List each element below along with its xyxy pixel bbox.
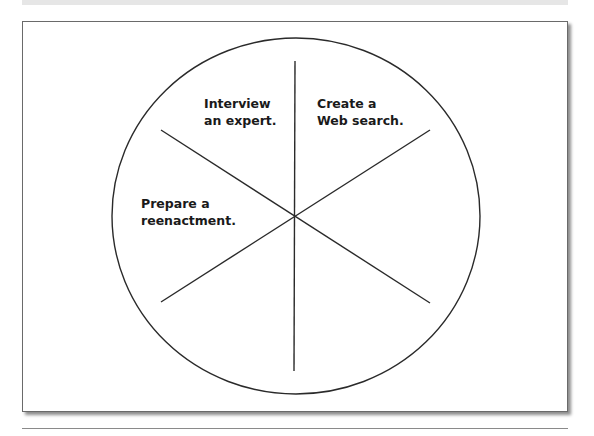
segment-label-reenactment: Prepare a reenactment. — [141, 195, 236, 229]
label-line: Prepare a — [141, 195, 236, 212]
label-line: an expert. — [204, 112, 277, 129]
segment-label-web-search: Create a Web search. — [317, 95, 404, 129]
idea-wheel — [0, 0, 594, 436]
label-line: Web search. — [317, 112, 404, 129]
bottom-rule — [22, 428, 568, 429]
label-line: reenactment. — [141, 212, 236, 229]
segment-label-interview: Interview an expert. — [204, 95, 277, 129]
label-line: Create a — [317, 95, 404, 112]
label-line: Interview — [204, 95, 277, 112]
